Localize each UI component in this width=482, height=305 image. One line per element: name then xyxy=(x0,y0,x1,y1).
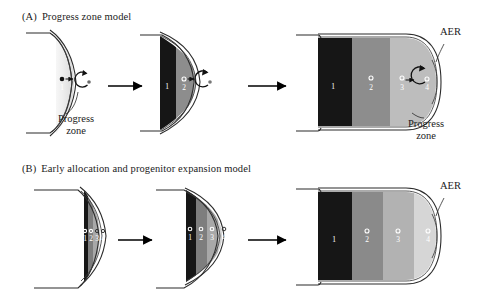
cell-label-4: 4 xyxy=(425,83,429,92)
progress-zone-label-a3-line2: zone xyxy=(408,130,444,142)
progress-zone-label-a1: Progress zone xyxy=(58,113,94,136)
zone-label-4: 4 xyxy=(101,234,105,243)
zone-label-4: 4 xyxy=(222,233,226,242)
aer-label-b3: AER xyxy=(440,180,461,192)
figure-canvas: (A)Progress zone model (B)Early allocati… xyxy=(0,0,482,305)
zone-label-2: 2 xyxy=(365,235,369,244)
body-wall-bottom xyxy=(296,128,321,131)
zone-label-1: 1 xyxy=(188,233,192,242)
panel-b-stage-2: 1 2 3 4 xyxy=(156,186,232,288)
panel-a-stage-3: 1 2 3 4 xyxy=(296,34,444,131)
zone-label-3: 3 xyxy=(95,234,99,243)
zone-label-3: 3 xyxy=(400,83,404,92)
panel-b-stage-3: 1 2 3 4 xyxy=(296,188,444,285)
cell-marker-1-dot xyxy=(60,77,65,82)
aer-leader xyxy=(436,44,444,62)
aer-label-b3-text: AER xyxy=(440,180,461,191)
cell-marker-4-ring xyxy=(101,229,104,232)
cell-label-1: 1 xyxy=(60,83,64,92)
rotation-arrow-head-stage2 xyxy=(202,69,209,76)
body-wall-top xyxy=(296,35,321,38)
zone-label-1: 1 xyxy=(332,235,336,244)
aer-leader xyxy=(436,198,444,216)
zone-label-2: 2 xyxy=(199,233,203,242)
panel-b-stage-1: 1 2 3 4 xyxy=(34,186,106,288)
zone-label-1: 1 xyxy=(83,234,87,243)
zone-label-1: 1 xyxy=(165,82,169,91)
progress-zone-label-a1-line1: Progress xyxy=(58,113,94,125)
zone-2-fill xyxy=(352,34,390,130)
diagram-svg: 1 1 2 xyxy=(0,0,482,305)
progress-zone-label-a3-line1: Progress xyxy=(408,118,444,130)
zone-label-4: 4 xyxy=(426,235,430,244)
zone-label-3: 3 xyxy=(210,233,214,242)
aer-label-a3: AER xyxy=(440,26,461,38)
aer-label-a3-text: AER xyxy=(440,26,461,37)
zone-label-3: 3 xyxy=(396,235,400,244)
zone-label-2: 2 xyxy=(182,83,186,92)
body-wall-top xyxy=(296,189,321,192)
zone-label-2: 2 xyxy=(89,234,93,243)
body-wall-bottom xyxy=(296,282,321,285)
zone-label-1: 1 xyxy=(331,82,335,91)
rotation-cell-dot-stage2 xyxy=(208,80,212,84)
progress-zone-label-a3: Progress zone xyxy=(408,118,444,141)
progress-zone-label-a1-line2: zone xyxy=(58,125,94,137)
zone-label-2: 2 xyxy=(369,83,373,92)
rotation-cell-dot-stage1 xyxy=(87,80,91,84)
rotation-arrow-head-stage1 xyxy=(82,70,88,76)
panel-a-stage-2: 1 2 xyxy=(140,30,212,142)
